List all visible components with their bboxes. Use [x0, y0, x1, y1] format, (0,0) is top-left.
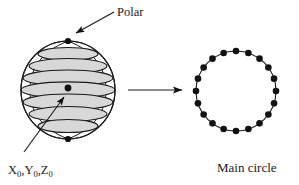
south-pole-dot	[65, 136, 71, 142]
coord-x-letter: X	[8, 163, 17, 177]
main-circle-node-dot	[265, 64, 272, 71]
latitude-band	[38, 120, 98, 133]
main-circle-node-dot	[195, 100, 202, 107]
main-circle-node-dot	[200, 64, 207, 71]
main-circle-node-dot	[220, 126, 227, 133]
sphere-center-dot	[65, 85, 72, 92]
north-pole-dot	[65, 38, 71, 44]
main-circle-outline	[196, 51, 276, 131]
main-circle-node-dot	[195, 75, 202, 82]
main-circle-node-dot	[193, 88, 200, 95]
main-circle-node-dot	[271, 100, 278, 107]
main-circle-node-dot	[245, 50, 252, 57]
main-circle-node-group	[193, 48, 280, 135]
diagram-canvas: Polar X0,Y0,Z0 Main circle	[0, 0, 299, 185]
coord-y-letter: Y	[24, 163, 33, 177]
sphere-group	[21, 38, 115, 142]
main-circle-label: Main circle	[217, 160, 277, 175]
coord-z-subscript: 0	[48, 169, 52, 179]
main-circle-group	[193, 48, 280, 135]
coords-label: X0,Y0,Z0	[8, 163, 53, 179]
main-circle-node-dot	[233, 48, 240, 55]
main-circle-node-dot	[256, 120, 263, 127]
coord-z-letter: Z	[41, 163, 49, 177]
main-circle-node-dot	[209, 55, 216, 62]
main-circle-node-dot	[273, 88, 280, 95]
main-circle-node-dot	[271, 75, 278, 82]
main-circle-node-dot	[256, 55, 263, 62]
main-circle-node-dot	[233, 128, 240, 135]
polar-annotation: Polar	[76, 5, 144, 33]
polar-label: Polar	[117, 5, 144, 19]
main-circle-node-dot	[220, 50, 227, 57]
main-circle-node-dot	[209, 120, 216, 127]
polar-leader-line	[76, 12, 114, 33]
main-circle-node-dot	[265, 111, 272, 118]
main-circle-node-dot	[245, 126, 252, 133]
main-circle-node-dot	[200, 111, 207, 118]
